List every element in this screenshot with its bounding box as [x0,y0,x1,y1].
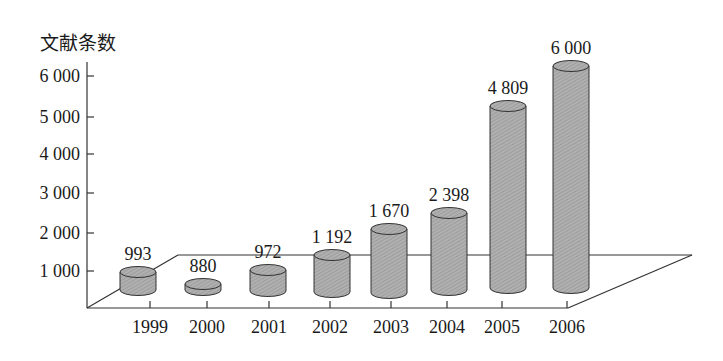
x-tick-label: 1999 [132,317,168,337]
value-label: 993 [125,244,152,264]
cylinder-bar-2000: 880 [185,256,221,296]
x-axis-ticks: 19992000200120022003200420052006 [132,301,585,337]
y-tick-label: 2 000 [40,223,81,243]
cylinder-bar-2001: 972 [250,242,286,297]
value-label: 1 670 [369,201,410,221]
y-tick-label: 6 000 [40,66,81,86]
y-axis-ticks: 1 0002 0003 0004 0005 0006 000 [40,66,95,281]
y-tick-label: 3 000 [40,183,81,203]
x-tick-label: 2005 [484,317,520,337]
cylinder-bar-2005: 4 809 [488,78,529,294]
value-label: 880 [190,256,217,276]
y-tick-label: 5 000 [40,107,81,127]
cylinder-bar-2006: 6 000 [551,38,592,293]
x-tick-label: 2004 [429,317,465,337]
x-tick-label: 2002 [312,317,348,337]
value-label: 2 398 [429,185,470,205]
value-label: 6 000 [551,38,592,58]
x-tick-label: 2006 [549,317,585,337]
value-label: 972 [255,242,282,262]
cylinder-bars: 9938809721 1921 6702 3984 8096 000 [120,38,591,299]
y-tick-label: 1 000 [40,261,81,281]
y-axis-title: 文献条数 [40,33,116,54]
x-tick-label: 2000 [189,317,225,337]
value-label: 1 192 [312,227,353,247]
y-tick-label: 4 000 [40,144,81,164]
value-label: 4 809 [488,78,529,98]
cylinder-bar-2002: 1 192 [312,227,353,298]
cylinder-bar-2004: 2 398 [429,185,470,296]
cylinder-bar-2003: 1 670 [369,201,410,299]
cylinder-bar-1999: 993 [120,244,156,296]
cylinder-bar-chart: 文献条数 1 0002 0003 0004 0005 0006 000 1999… [0,0,723,361]
x-tick-label: 2001 [251,317,287,337]
x-tick-label: 2003 [373,317,409,337]
